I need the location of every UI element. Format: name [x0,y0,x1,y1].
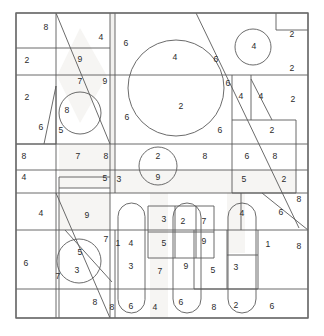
region-number-label: 9 [85,210,90,220]
region-number-label: 2 [290,29,295,39]
region-number-label: 9 [78,54,83,64]
region-number-label: 4 [39,208,44,218]
region-number-label: 6 [218,125,223,135]
region-number-label: 4 [99,32,104,42]
region-number-label: 1 [266,239,271,249]
region-number-label: 8 [297,194,302,204]
line-segment [236,96,299,228]
region-number-label: 7 [76,151,81,161]
region-number-label: 6 [245,151,250,161]
region-number-label: 8 [93,297,98,307]
region-number-label: 9 [184,261,189,271]
region-number-label: 4 [240,208,245,218]
region-number-label: 5 [78,247,83,257]
region-number-label: 8 [273,151,278,161]
region-number-label: 2 [290,63,295,73]
region-number-label: 1 [116,238,121,248]
region-number-label: 4 [153,302,158,312]
region-number-label: 5 [103,173,108,183]
region-number-label: 6 [270,301,275,311]
region-number-label: 3 [129,261,134,271]
region-number-label: 7 [158,266,163,276]
stadium-shape [118,203,145,313]
shade-vertical-strip-1 [110,13,115,193]
region-number-label: 9 [103,76,108,86]
region-number-label: 2 [156,151,161,161]
region-number-label: 4 [239,91,244,101]
region-number-label: 8 [65,105,70,115]
region-number-label: 5 [162,238,167,248]
figure-canvas: 8464229462796244286256628782868945352493… [0,0,324,336]
shade-mid-band [115,170,232,193]
region-number-label: 3 [117,174,122,184]
region-number-label: 3 [162,214,167,224]
region-number-label: 6 [129,301,134,311]
shade-vertical-strip-3 [227,193,245,253]
region-number-label: 4 [252,41,257,51]
region-number-label: 8 [44,22,49,32]
region-number-label: 2 [282,174,287,184]
line-segment [44,86,56,144]
region-number-label: 6 [124,38,129,48]
region-number-label: 2 [25,92,30,102]
region-number-label: 4 [259,91,264,101]
region-number-label: 7 [202,216,207,226]
region-number-label: 4 [173,52,178,62]
region-number-label: 2 [25,55,30,65]
region-number-label: 9 [156,172,161,182]
region-number-label: 6 [226,78,231,88]
region-number-label: 6 [214,54,219,64]
region-number-label: 2 [234,300,239,310]
region-number-label: 7 [56,271,61,281]
region-number-label: 8 [203,151,208,161]
region-number-label: 8 [110,302,115,312]
region-number-label: 8 [212,302,217,312]
region-number-label: 6 [125,112,130,122]
region-number-label: 7 [104,234,109,244]
region-number-label: 6 [39,122,44,132]
region-number-label: 2 [181,216,186,226]
region-number-label: 8 [297,241,302,251]
shade-vertical-strip-2 [150,193,168,318]
region-number-label: 6 [179,297,184,307]
region-number-label: 5 [211,265,216,275]
region-number-label: 4 [22,172,27,182]
region-number-label: 8 [22,151,27,161]
region-number-label: 9 [202,236,207,246]
region-number-label: 3 [234,262,239,272]
region-number-label: 5 [59,125,64,135]
region-number-label: 4 [129,238,134,248]
region-number-label: 2 [270,125,275,135]
region-number-label: 6 [279,207,284,217]
region-number-label: 5 [242,174,247,184]
region-number-label: 2 [291,94,296,104]
region-number-label: 7 [78,76,83,86]
geometric-puzzle-figure: 8464229462796244286256628782868945352493… [0,0,324,336]
region-number-label: 6 [24,258,29,268]
region-number-label: 8 [104,151,109,161]
region-number-label: 3 [75,265,80,275]
region-number-label: 2 [179,101,184,111]
